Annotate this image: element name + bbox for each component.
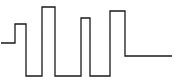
waveform-diagram [0, 0, 177, 84]
waveform-line [1, 7, 172, 76]
